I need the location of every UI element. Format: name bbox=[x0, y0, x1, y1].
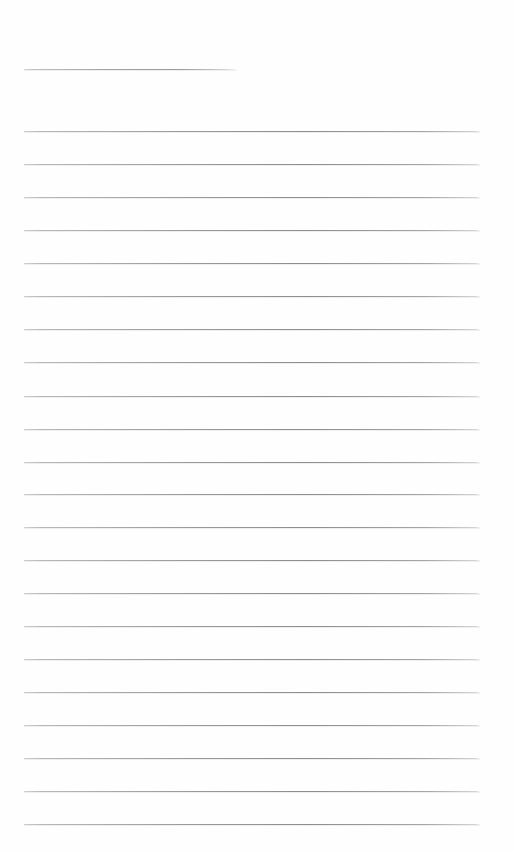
rule-line-17 bbox=[24, 626, 480, 627]
rule-line-4 bbox=[24, 197, 480, 198]
rule-line-23 bbox=[24, 824, 480, 825]
rule-line-14 bbox=[24, 527, 480, 528]
rule-line-21 bbox=[24, 758, 480, 759]
rule-line-1 bbox=[24, 69, 237, 70]
rule-line-20 bbox=[24, 725, 480, 726]
rule-line-19 bbox=[24, 692, 480, 693]
rule-line-11 bbox=[24, 429, 480, 430]
rule-line-5 bbox=[24, 230, 480, 231]
rule-line-7 bbox=[24, 296, 480, 297]
rule-line-9 bbox=[24, 362, 480, 363]
rule-line-8 bbox=[24, 329, 480, 330]
rule-line-10 bbox=[24, 396, 480, 397]
rule-line-22 bbox=[24, 791, 480, 792]
rule-line-2 bbox=[24, 131, 480, 132]
rule-line-12 bbox=[24, 462, 480, 463]
rule-line-3 bbox=[24, 164, 480, 165]
scanned-page bbox=[0, 0, 514, 852]
rule-line-18 bbox=[24, 659, 480, 660]
rule-line-13 bbox=[24, 494, 480, 495]
rule-line-16 bbox=[24, 593, 480, 594]
rule-line-6 bbox=[24, 263, 480, 264]
rule-line-15 bbox=[24, 560, 480, 561]
